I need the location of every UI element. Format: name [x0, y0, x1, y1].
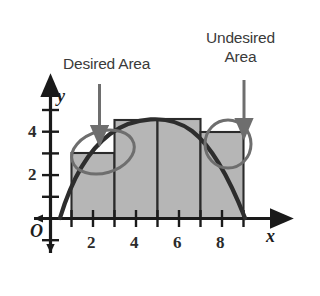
- x-axis-label: x: [266, 226, 275, 247]
- undesired-area-label-line1: Undesired: [206, 28, 275, 47]
- x-tick-label-4: 4: [130, 233, 139, 253]
- desired-area-label: Desired Area: [63, 55, 150, 73]
- x-tick-label-2: 2: [87, 233, 96, 253]
- x-tick-label-6: 6: [173, 233, 182, 253]
- y-axis-label: y: [57, 86, 65, 107]
- undesired-area-label-line2: Area: [206, 47, 275, 66]
- y-tick-label-4: 4: [28, 122, 37, 142]
- riemann-bar-2: [115, 120, 158, 219]
- x-tick-label-8: 8: [216, 233, 225, 253]
- origin-label: O: [30, 221, 43, 242]
- undesired-area-label: Undesired Area: [206, 28, 275, 66]
- desired-area-label-text: Desired Area: [63, 55, 150, 72]
- riemann-bar-1: [72, 153, 115, 219]
- y-tick-label-2: 2: [28, 165, 37, 185]
